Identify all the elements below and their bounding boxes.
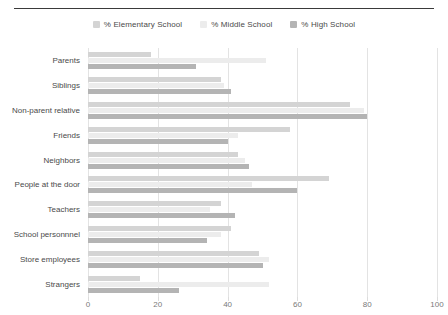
bar[interactable]	[88, 114, 367, 119]
y-axis-label: Store employees	[0, 247, 84, 272]
y-axis-label: Parents	[0, 48, 84, 73]
bar[interactable]	[88, 288, 179, 293]
y-axis-label: Non-parent relative	[0, 98, 84, 123]
bar[interactable]	[88, 182, 252, 187]
bar[interactable]	[88, 58, 266, 63]
bar[interactable]	[88, 201, 221, 206]
y-axis-label: Friends	[0, 123, 84, 148]
bar[interactable]	[88, 158, 245, 163]
y-axis-label: Siblings	[0, 73, 84, 98]
legend-swatch-icon	[290, 21, 297, 28]
bar[interactable]	[88, 83, 224, 88]
x-axis-tick-label: 60	[293, 300, 302, 309]
y-axis-label: People at the door	[0, 173, 84, 198]
y-axis-label: Strangers	[0, 272, 84, 297]
y-axis-label: Teachers	[0, 197, 84, 222]
bar[interactable]	[88, 152, 238, 157]
bar-rows	[88, 48, 437, 297]
bar-group	[88, 173, 437, 198]
y-axis-label: School personnnel	[0, 222, 84, 247]
bar[interactable]	[88, 102, 350, 107]
legend-label: % Middle School	[211, 20, 272, 29]
x-axis-tick-label: 20	[153, 300, 162, 309]
bar[interactable]	[88, 282, 269, 287]
x-axis-labels: 020406080100	[88, 300, 437, 312]
bar[interactable]	[88, 226, 231, 231]
bar[interactable]	[88, 77, 221, 82]
cropped-heading	[14, 0, 434, 7]
bar[interactable]	[88, 89, 231, 94]
chart-legend: % Elementary School% Middle School% High…	[0, 20, 448, 29]
gridline	[437, 48, 438, 297]
bar-group	[88, 73, 437, 98]
legend-label: % Elementary School	[104, 20, 182, 29]
bar-group	[88, 247, 437, 272]
bar-group	[88, 123, 437, 148]
x-axis-tick-label: 80	[363, 300, 372, 309]
bar-group	[88, 148, 437, 173]
bar[interactable]	[88, 176, 329, 181]
legend-item[interactable]: % High School	[290, 20, 355, 29]
legend-item[interactable]: % Middle School	[200, 20, 272, 29]
bar[interactable]	[88, 276, 140, 281]
bar[interactable]	[88, 52, 151, 57]
bar-group	[88, 48, 437, 73]
bar[interactable]	[88, 64, 196, 69]
bar[interactable]	[88, 238, 207, 243]
bar[interactable]	[88, 164, 249, 169]
y-axis-label: Neighbors	[0, 148, 84, 173]
legend-item[interactable]: % Elementary School	[93, 20, 182, 29]
bar[interactable]	[88, 188, 297, 193]
bar[interactable]	[88, 127, 290, 132]
x-axis-tick-label: 40	[223, 300, 232, 309]
bar[interactable]	[88, 108, 364, 113]
bar[interactable]	[88, 263, 263, 268]
bar[interactable]	[88, 139, 228, 144]
bar[interactable]	[88, 257, 269, 262]
bar-group	[88, 272, 437, 297]
y-axis-labels: ParentsSiblingsNon-parent relativeFriend…	[0, 48, 84, 297]
header-divider	[14, 8, 434, 9]
bar[interactable]	[88, 207, 210, 212]
bar-group	[88, 222, 437, 247]
bar[interactable]	[88, 232, 221, 237]
bar[interactable]	[88, 213, 235, 218]
plot-area	[88, 48, 437, 297]
x-axis-tick-label: 0	[86, 300, 90, 309]
bar-group	[88, 197, 437, 222]
legend-swatch-icon	[93, 21, 100, 28]
bar-group	[88, 98, 437, 123]
x-axis-tick-label: 100	[430, 300, 443, 309]
legend-swatch-icon	[200, 21, 207, 28]
bar[interactable]	[88, 133, 238, 138]
bar[interactable]	[88, 251, 259, 256]
legend-label: % High School	[301, 20, 355, 29]
